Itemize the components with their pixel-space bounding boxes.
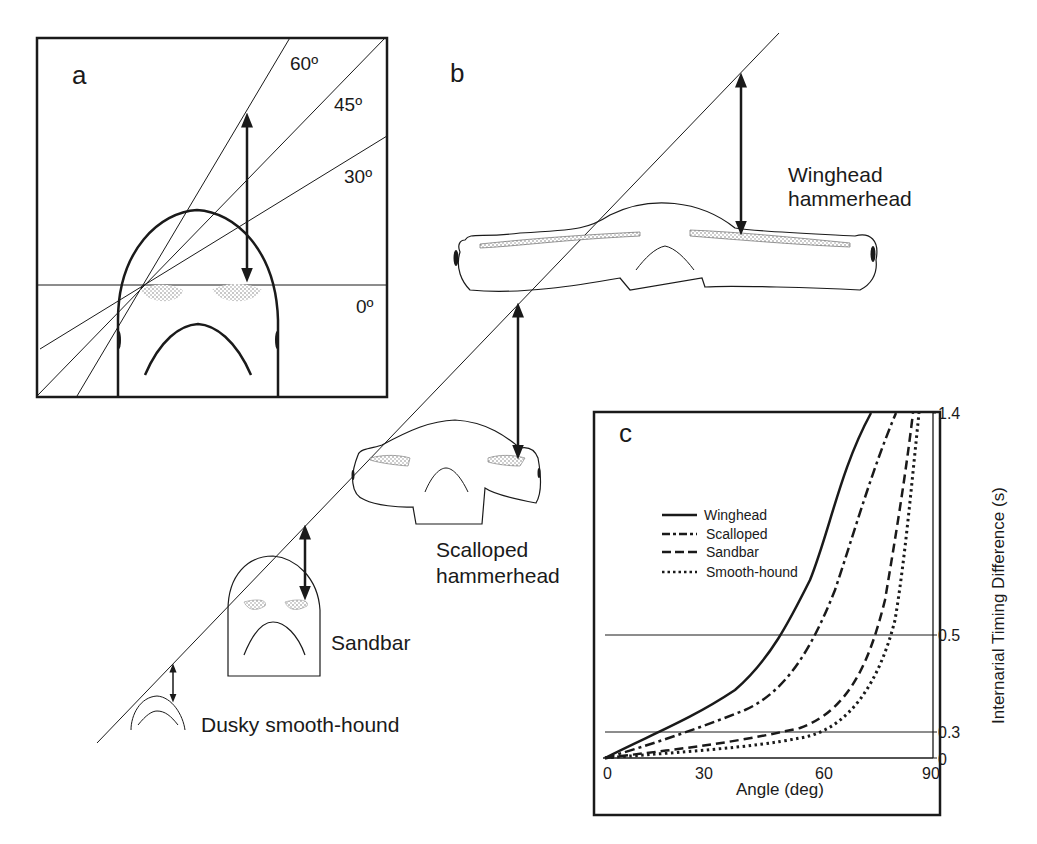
x-axis-title: Angle (deg)	[736, 780, 824, 799]
y-tick-0.3: 0.3	[938, 724, 960, 741]
legend-label-scalloped: Scalloped	[706, 526, 768, 542]
series-smooth-hound	[605, 413, 919, 758]
winghead-nostril-right	[690, 230, 850, 247]
bearing-line	[97, 33, 779, 743]
shark-head-winghead	[454, 203, 877, 291]
y-tick-0: 0	[938, 751, 947, 768]
legend-label-winghead: Winghead	[704, 507, 767, 523]
angle-line-60	[77, 36, 291, 396]
nostril-right	[212, 284, 262, 301]
series-sandbar	[605, 413, 913, 758]
eye-right	[275, 331, 279, 349]
label-scalloped-1: Scalloped	[436, 538, 528, 561]
y-tick-0.5: 0.5	[938, 627, 960, 644]
series-winghead	[605, 413, 871, 758]
angle-label-30: 30º	[344, 166, 372, 187]
shark-head-scalloped	[352, 420, 541, 524]
label-dusky-smooth-hound: Dusky smooth-hound	[201, 713, 399, 736]
angle-label-0: 0º	[356, 296, 374, 317]
nostril-left	[140, 285, 183, 302]
angle-label-45: 45º	[334, 94, 362, 115]
label-winghead-2: hammerhead	[788, 187, 912, 210]
panel-a-label: a	[72, 60, 87, 90]
y-axis-title: Internarial Timing Difference (s)	[989, 487, 1008, 724]
label-winghead-1: Winghead	[788, 163, 883, 186]
chart-legend: Winghead Scalloped Sandbar Smooth-hound	[662, 507, 798, 580]
x-tick-30: 30	[695, 765, 713, 782]
shark-head-a	[117, 210, 279, 396]
panel-c-frame	[594, 412, 940, 815]
panel-a-frame	[37, 38, 387, 397]
angle-line-45	[38, 38, 385, 395]
eye-left	[117, 331, 121, 349]
series-scalloped	[605, 413, 896, 758]
label-scalloped-2: hammerhead	[436, 564, 560, 587]
panel-c-chart: c 0 30 60 90 0 0.3 0.5 1.4 Angle (deg) I…	[594, 405, 1008, 815]
chart-series	[605, 413, 919, 758]
angle-label-60: 60º	[290, 53, 318, 74]
x-tick-0: 0	[603, 765, 612, 782]
angle-line-30	[40, 136, 387, 349]
panel-c-label: c	[619, 418, 632, 448]
y-tick-1.4: 1.4	[938, 405, 960, 422]
label-sandbar: Sandbar	[331, 631, 410, 654]
panel-b-label: b	[450, 58, 464, 88]
angle-lines	[37, 36, 389, 396]
shark-head-dusky-smooth-hound	[131, 696, 185, 730]
panel-b: b Winghead hammerhead Scalloped hammerhe…	[97, 33, 912, 743]
panel-a: a 60º 45º 30º 0º	[37, 36, 389, 397]
figure-canvas: a 60º 45º 30º 0º b	[0, 0, 1037, 844]
legend-label-sandbar: Sandbar	[706, 544, 759, 560]
legend-label-smooth-hound: Smooth-hound	[706, 564, 798, 580]
